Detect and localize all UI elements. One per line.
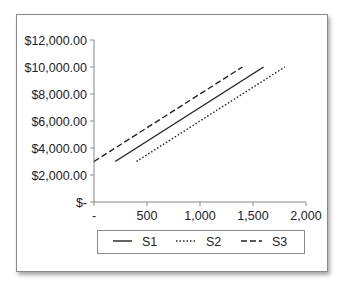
x-tick-label: - [92,209,96,223]
y-tick-label: $8,000.00 [31,88,87,102]
y-tick-label: $12,000.00 [24,34,87,48]
series-line-s1 [115,67,263,162]
legend [97,230,305,254]
y-tick-label: $2,000.00 [31,169,87,183]
y-tick-label: $6,000.00 [31,115,87,129]
plot-area [94,67,285,162]
series-line-s2 [136,67,284,162]
y-tick-label: $10,000.00 [24,61,87,75]
x-tick-label: 500 [137,209,158,223]
x-tick-label: 2,000 [290,209,321,223]
x-tick-label: 1,500 [237,209,268,223]
y-tick-label: $4,000.00 [31,142,87,156]
axes: $-$2,000.00$4,000.00$6,000.00$8,000.00$1… [24,34,321,224]
x-tick-label: 1,000 [184,209,215,223]
series-line-s3 [94,67,242,162]
y-tick-label: $- [76,196,87,210]
